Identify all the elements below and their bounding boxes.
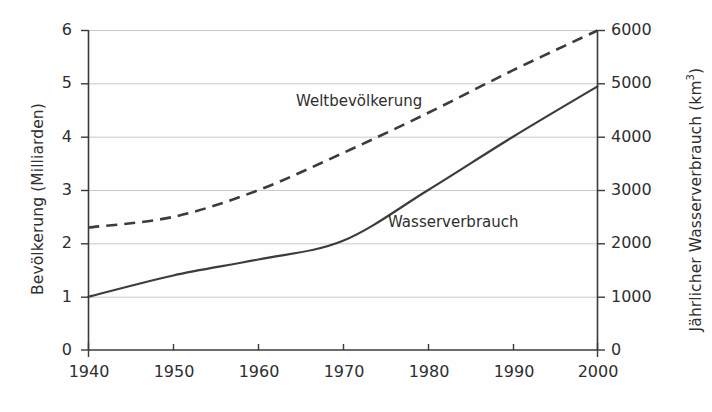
y-tick-label-right-2000: 2000	[611, 233, 671, 252]
y-axis-right-ticks	[598, 31, 605, 351]
y-tick-label-left-6: 6	[32, 20, 72, 39]
y-tick-label-right-4000: 4000	[611, 127, 671, 146]
y-tick-label-left-4: 4	[32, 127, 72, 146]
series-annotation-weltbevoelkerung: Weltbevölkerung	[296, 92, 422, 110]
x-tick-label-1950: 1950	[139, 362, 209, 381]
series-annotation-wasserverbrauch: Wasserverbrauch	[388, 213, 519, 231]
y-tick-label-left-2: 2	[32, 233, 72, 252]
gridlines	[88, 31, 598, 298]
y-tick-label-right-1000: 1000	[611, 287, 671, 306]
y-axis-left-ticks	[81, 31, 88, 351]
y-tick-label-left-0: 0	[32, 340, 72, 359]
x-tick-label-1980: 1980	[394, 362, 464, 381]
y-tick-label-right-5000: 5000	[611, 73, 671, 92]
series-line-weltbevoelkerung	[89, 31, 598, 228]
y-tick-label-right-6000: 6000	[611, 20, 671, 39]
x-tick-label-1940: 1940	[54, 362, 124, 381]
x-tick-label-1960: 1960	[224, 362, 294, 381]
y-axis-right-title: Jährlicher Wasserverbrauch (km3)	[685, 50, 704, 350]
y-tick-label-right-0: 0	[611, 340, 671, 359]
y-axis-right-title-text: Jährlicher Wasserverbrauch (km	[687, 80, 705, 331]
y-tick-label-left-5: 5	[32, 73, 72, 92]
x-tick-label-2000: 2000	[563, 362, 633, 381]
y-axis-right-title-superscript: 3	[685, 74, 696, 80]
y-tick-label-left-1: 1	[32, 287, 72, 306]
chart-plot-area	[0, 0, 712, 412]
x-tick-label-1990: 1990	[479, 362, 549, 381]
y-tick-label-left-3: 3	[32, 180, 72, 199]
series-line-wasserverbrauch	[89, 86, 598, 296]
y-axis-right-title-close: )	[687, 68, 705, 74]
x-tick-label-1970: 1970	[309, 362, 379, 381]
y-tick-label-right-3000: 3000	[611, 180, 671, 199]
chart-figure: Bevölkerung (Milliarden) Jährlicher Wass…	[0, 0, 712, 412]
